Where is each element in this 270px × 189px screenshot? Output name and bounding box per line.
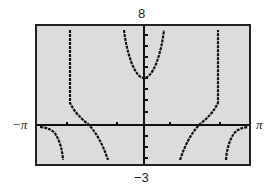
xmax-label: π — [256, 117, 263, 133]
calculator-screen — [0, 0, 270, 189]
ymax-label: 8 — [138, 6, 145, 21]
ymin-label: −3 — [134, 170, 149, 185]
xmin-label: −π — [12, 117, 27, 133]
